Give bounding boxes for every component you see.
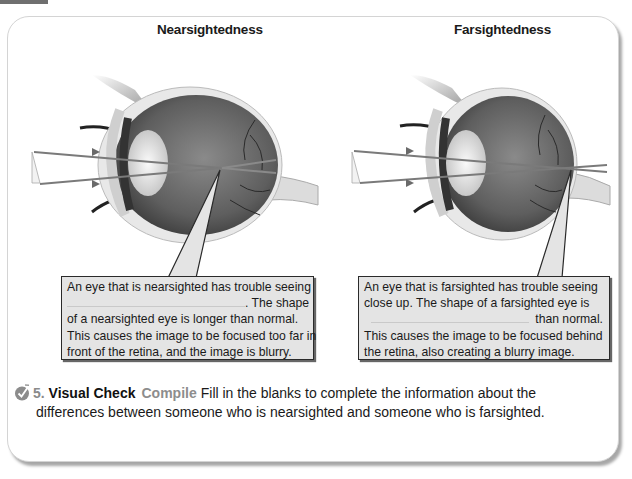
question-number: 5. <box>33 385 45 401</box>
farsighted-eye-illustration <box>352 75 610 278</box>
callout-text: front of the retina, and the image is bl… <box>67 344 307 360</box>
callout-text: An eye that is nearsighted has trouble s… <box>67 279 307 295</box>
fill-in-blank-nearsighted[interactable] <box>67 295 245 307</box>
callout-text: This causes the image to be focused behi… <box>364 328 603 344</box>
nearsighted-eye-illustration <box>32 75 318 278</box>
question-text: Fill in the blanks to complete the infor… <box>201 385 536 401</box>
question-title: Visual Check <box>49 385 136 401</box>
callout-text: close up. The shape of a farsighted eye … <box>364 295 603 311</box>
nearsighted-callout: An eye that is nearsighted has trouble s… <box>61 276 314 360</box>
callout-text: An eye that is farsighted has trouble se… <box>364 279 603 295</box>
question-verb: Compile <box>141 385 196 401</box>
callout-text: This causes the image to be focused too … <box>67 328 307 344</box>
farsighted-callout: An eye that is farsighted has trouble se… <box>358 276 610 360</box>
fill-in-blank-farsighted[interactable] <box>371 311 529 323</box>
question-line-1: 5. Visual CheckCompileFill in the blanks… <box>14 384 604 403</box>
question-line-2: differences between someone who is nears… <box>14 403 604 422</box>
callout-text-with-blank: than normal. <box>364 311 603 327</box>
callout-text: of a nearsighted eye is longer than norm… <box>67 311 307 327</box>
callout-text: the retina, also creating a blurry image… <box>364 344 603 360</box>
checkmark-circle-icon <box>14 384 31 401</box>
visual-check-question: 5. Visual CheckCompileFill in the blanks… <box>14 384 604 422</box>
callout-text-with-blank: . The shape <box>67 295 307 311</box>
